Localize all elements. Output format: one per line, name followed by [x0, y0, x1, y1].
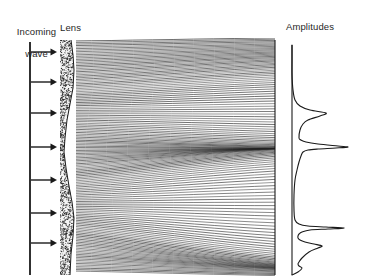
stipple-dot — [63, 135, 64, 136]
stipple-dot — [69, 43, 70, 44]
stipple-dot — [68, 206, 69, 207]
stipple-dot — [68, 251, 69, 252]
stipple-dot — [65, 109, 66, 110]
stipple-dot — [63, 163, 64, 164]
stipple-dot — [67, 50, 68, 51]
stipple-dot — [65, 79, 66, 80]
stipple-dot — [59, 131, 60, 132]
incoming-wave-label: Incoming wave — [4, 15, 58, 70]
stipple-dot — [60, 214, 61, 215]
stipple-dot — [63, 250, 64, 251]
stipple-dot — [69, 90, 70, 91]
stipple-dot — [60, 230, 61, 231]
stipple-dot — [65, 193, 66, 194]
stipple-dot — [62, 270, 63, 271]
wave-arrow-head — [51, 110, 58, 117]
lensing-figure: Incoming wave Lens Amplitudes — [0, 0, 365, 280]
stipple-dot — [65, 233, 66, 234]
stipple-dot — [60, 85, 61, 86]
stipple-dot — [68, 234, 69, 235]
stipple-dot — [65, 73, 66, 74]
stipple-dot — [60, 180, 61, 181]
stipple-dot — [64, 91, 65, 92]
stipple-dot — [67, 52, 68, 53]
stipple-dot — [59, 192, 60, 193]
stipple-dot — [64, 210, 65, 211]
stipple-dot — [59, 175, 60, 176]
stipple-dot — [59, 152, 60, 153]
stipple-dot — [62, 134, 63, 135]
stipple-dot — [64, 179, 65, 180]
ray — [73, 206, 276, 209]
stipple-dot — [60, 54, 61, 55]
stipple-dot — [61, 225, 62, 226]
stipple-dot — [62, 146, 63, 147]
ray — [67, 124, 276, 131]
stipple-dot — [64, 198, 65, 199]
stipple-dot — [68, 202, 69, 203]
stipple-dot — [67, 71, 68, 72]
stipple-dot — [59, 99, 60, 100]
stipple-dot — [60, 236, 61, 237]
stipple-dot — [64, 254, 65, 255]
stipple-dot — [71, 225, 72, 226]
stipple-dot — [62, 186, 63, 187]
stipple-dot — [59, 166, 60, 167]
stipple-dot — [59, 241, 60, 242]
stipple-dot — [66, 198, 67, 199]
stipple-dot — [68, 213, 69, 214]
stipple-dot — [63, 160, 64, 161]
stipple-dot — [59, 144, 60, 145]
stipple-dot — [59, 142, 60, 143]
stipple-dot — [70, 209, 71, 210]
stipple-dot — [59, 242, 60, 243]
stipple-dot — [71, 223, 72, 224]
stipple-dot — [71, 80, 72, 81]
stipple-dot — [66, 270, 67, 271]
stipple-dot — [61, 90, 62, 91]
stipple-dot — [71, 70, 72, 71]
stipple-dot — [64, 174, 65, 175]
stipple-dot — [66, 246, 67, 247]
stipple-dot — [62, 190, 63, 191]
stipple-dot — [61, 149, 62, 150]
stipple-dot — [66, 204, 67, 205]
stipple-dot — [64, 214, 65, 215]
stipple-dot — [67, 80, 68, 81]
stipple-dot — [67, 231, 68, 232]
stipple-dot — [62, 147, 63, 148]
stipple-dot — [70, 79, 71, 80]
stipple-dot — [70, 222, 71, 223]
stipple-dot — [64, 258, 65, 259]
stipple-dot — [68, 219, 69, 220]
stipple-dot — [69, 202, 70, 203]
stipple-dot — [69, 81, 70, 82]
stipple-dot — [59, 240, 60, 241]
stipple-dot — [59, 234, 60, 235]
stipple-dot — [63, 58, 64, 59]
stipple-dot — [62, 75, 63, 76]
stipple-dot — [64, 185, 65, 186]
stipple-dot — [70, 52, 71, 53]
stipple-dot — [61, 271, 62, 272]
stipple-dot — [61, 136, 62, 137]
stipple-dot — [63, 109, 64, 110]
stipple-dot — [67, 196, 68, 197]
stipple-dot — [71, 209, 72, 210]
stipple-dot — [59, 161, 60, 162]
stipple-dot — [68, 198, 69, 199]
stipple-dot — [69, 217, 70, 218]
stipple-dot — [59, 154, 60, 155]
stipple-dot — [60, 124, 61, 125]
stipple-dot — [61, 40, 62, 41]
stipple-dot — [65, 172, 66, 173]
stipple-dot — [64, 169, 65, 170]
stipple-dot — [58, 246, 59, 247]
stipple-dot — [67, 255, 68, 256]
stipple-dot — [59, 141, 60, 142]
stipple-dot — [59, 62, 60, 63]
stipple-dot — [60, 56, 61, 57]
stipple-dot — [65, 67, 66, 68]
stipple-dot — [58, 249, 59, 250]
stipple-dot — [60, 256, 61, 257]
